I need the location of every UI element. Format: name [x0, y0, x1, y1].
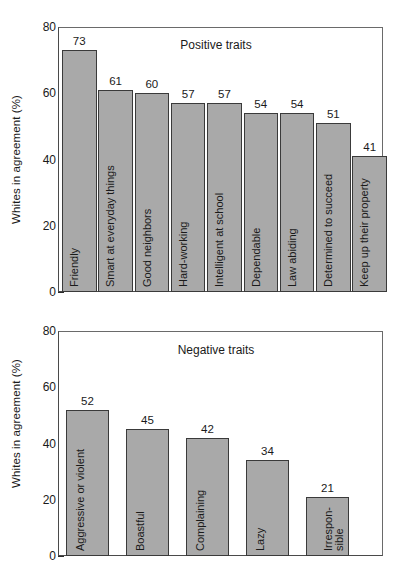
bar: [126, 429, 169, 556]
bar-category-label: Boastful: [135, 511, 147, 551]
bar-value-label: 54: [244, 99, 279, 111]
bar: [66, 410, 109, 556]
bar-value-label: 45: [126, 415, 169, 427]
bar-value-label: 34: [246, 446, 289, 458]
bar-value-label: 57: [207, 89, 242, 101]
y-tick-label-60: 60: [34, 87, 56, 99]
bar-category-label: Determined to succeed: [323, 174, 335, 287]
y-tick-label-0: 0: [34, 550, 56, 562]
bar: [246, 460, 289, 556]
bar-category-label: Dependable: [251, 228, 263, 287]
bar-category-label: Intelligent at school: [214, 193, 226, 287]
bar: [186, 438, 229, 556]
bar-value-label: 57: [171, 89, 206, 101]
y-tick-label-20: 20: [34, 220, 56, 232]
y-tick-major-0: [58, 556, 64, 557]
bar-category-label: Friendly: [69, 248, 81, 287]
bar-category-label: Complaining: [195, 490, 207, 551]
y-tick-label-60: 60: [34, 381, 56, 393]
y-tick-major-0: [58, 292, 64, 293]
bar-category-label: Keep up their property: [359, 178, 371, 287]
bar-value-label: 21: [306, 483, 349, 495]
y-tick-label-20: 20: [34, 494, 56, 506]
bar-category-label: Irrespon- sible: [323, 507, 345, 551]
y-tick-label-80: 80: [34, 21, 56, 33]
y-tick-label-40: 40: [34, 438, 56, 450]
y-axis-ticks-positive: 020406080: [32, 0, 56, 312]
bar-value-label: 54: [280, 99, 315, 111]
y-tick-label-0: 0: [34, 286, 56, 298]
chart-panel-negative-traits: Whites in agreement (%) 020406080 Negati…: [0, 305, 397, 572]
bar-value-label: 41: [352, 142, 387, 154]
bar-value-label: 61: [98, 76, 133, 88]
y-axis-ticks-negative: 020406080: [32, 305, 56, 572]
bar-value-label: 42: [186, 424, 229, 436]
bar-category-label: Law abiding: [287, 228, 299, 287]
plot-title-positive: Positive traits: [180, 38, 251, 52]
chart-panel-positive-traits: Whites in agreement (%) 020406080 Positi…: [0, 0, 397, 300]
bar-value-label: 52: [66, 396, 109, 408]
bar-category-label: Lazy: [255, 528, 267, 551]
bar-value-label: 73: [62, 36, 97, 48]
bar-category-label: Hard-working: [178, 222, 190, 287]
bar-category-label: Smart at everyday things: [105, 165, 117, 287]
y-tick-label-40: 40: [34, 154, 56, 166]
bar-category-label: Aggressive or violent: [75, 449, 87, 551]
y-axis-label-positive: Whites in agreement (%): [10, 27, 22, 292]
bar-category-label: Good neighbors: [142, 209, 154, 287]
plot-title-negative: Negative traits: [178, 343, 255, 357]
bar-value-label: 51: [316, 109, 351, 121]
y-axis-label-negative: Whites in agreement (%): [10, 291, 22, 556]
bar-value-label: 60: [135, 79, 170, 91]
y-tick-label-80: 80: [34, 325, 56, 337]
